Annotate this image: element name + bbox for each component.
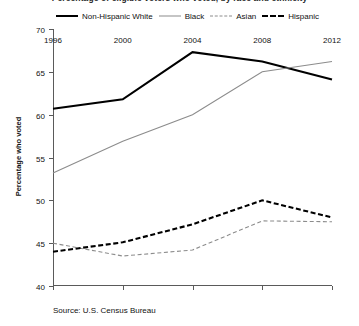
- legend-swatch-hispanic: [262, 13, 284, 19]
- legend-item-asian: Asian: [210, 12, 256, 21]
- source-note: Source: U.S. Census Bureau: [53, 306, 156, 315]
- series-lines: [53, 29, 332, 286]
- y-tick-label-45: 45: [36, 240, 45, 249]
- plot-area: 70656055504540 19962000200420082012: [53, 29, 332, 286]
- legend-label-asian: Asian: [236, 12, 256, 21]
- x-tick-2008: [262, 286, 263, 290]
- x-tick-2012: [332, 286, 333, 290]
- series-line-black: [53, 62, 332, 173]
- y-tick-label-60: 60: [36, 111, 45, 120]
- y-tick-label-70: 70: [36, 26, 45, 35]
- y-tick-label-55: 55: [36, 154, 45, 163]
- legend-item-hispanic: Hispanic: [262, 12, 319, 21]
- x-tick-1996: [53, 286, 54, 290]
- legend-swatch-black: [159, 13, 181, 19]
- series-line-hispanic: [53, 200, 332, 251]
- y-tick-label-50: 50: [36, 197, 45, 206]
- chart-figure: Percentage of eligible voters who voted,…: [0, 0, 359, 326]
- legend-label-black: Black: [185, 12, 205, 21]
- x-tick-2004: [193, 286, 194, 290]
- series-line-asian: [53, 221, 332, 256]
- series-line-non-hispanic-white: [53, 52, 332, 109]
- legend-item-non-hispanic-white: Non-Hispanic White: [56, 12, 153, 21]
- legend-label-hispanic: Hispanic: [288, 12, 319, 21]
- chart-title: Percentage of eligible voters who voted,…: [0, 0, 359, 5]
- y-axis-title: Percentage who voted: [14, 82, 23, 232]
- legend-item-black: Black: [159, 12, 205, 21]
- legend-label-non-hispanic-white: Non-Hispanic White: [82, 12, 153, 21]
- y-tick-label-40: 40: [36, 283, 45, 292]
- y-tick-label-65: 65: [36, 68, 45, 77]
- legend-swatch-non-hispanic-white: [56, 13, 78, 19]
- chart-legend: Non-Hispanic White Black Asian Hispanic: [56, 9, 354, 23]
- legend-swatch-asian: [210, 13, 232, 19]
- x-tick-2000: [123, 286, 124, 290]
